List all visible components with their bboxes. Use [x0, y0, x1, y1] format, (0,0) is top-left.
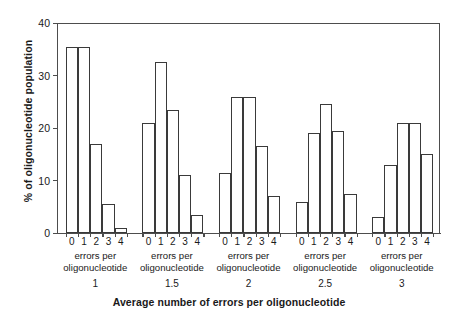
bar — [344, 194, 356, 233]
x-tick-label: 3 — [179, 236, 191, 247]
bar — [320, 104, 332, 233]
x-tick-label: 2 — [167, 236, 179, 247]
group-caption: errors peroligonucleotide — [351, 250, 452, 273]
x-tick-mark — [243, 233, 244, 237]
bar — [66, 47, 78, 233]
bar — [409, 123, 421, 233]
bar — [115, 228, 127, 233]
y-tick-label: 40 — [16, 18, 50, 28]
x-tick-mark — [372, 233, 373, 237]
x-tick-mark — [179, 233, 180, 237]
bar — [372, 217, 384, 233]
x-tick-label: 4 — [344, 236, 356, 247]
x-tick-mark — [357, 233, 358, 237]
x-tick-mark — [397, 233, 398, 237]
x-tick-label: 2 — [243, 236, 255, 247]
x-tick-label: 0 — [142, 236, 154, 247]
bar — [397, 123, 409, 233]
bar — [155, 62, 167, 233]
x-tick-label: 3 — [409, 236, 421, 247]
x-tick-mark — [344, 233, 345, 237]
x-tick-mark — [308, 233, 309, 237]
x-tick-label: 3 — [102, 236, 114, 247]
x-tick-mark — [191, 233, 192, 237]
x-tick-label: 3 — [332, 236, 344, 247]
x-tick-label: 1 — [384, 236, 396, 247]
x-tick-label: 4 — [191, 236, 203, 247]
x-tick-label: 2 — [90, 236, 102, 247]
x-tick-mark — [115, 233, 116, 237]
y-axis-title: % of oligonucleotide population — [22, 16, 34, 226]
bar — [90, 144, 102, 233]
bar — [243, 97, 255, 234]
group-caption-line2: oligonucleotide — [351, 262, 452, 274]
group-caption-line1: errors per — [351, 250, 452, 262]
x-tick-label: 0 — [66, 236, 78, 247]
x-tick-mark — [78, 233, 79, 237]
x-tick-label: 4 — [268, 236, 280, 247]
y-tick-label: 10 — [16, 176, 50, 186]
x-tick-label: 2 — [320, 236, 332, 247]
x-tick-label: 1 — [231, 236, 243, 247]
x-tick-mark — [127, 233, 128, 237]
chart-figure: % of oligonucleotide population 01020304… — [0, 0, 458, 325]
x-tick-mark — [203, 233, 204, 237]
x-tick-label: 4 — [115, 236, 127, 247]
x-tick-mark — [90, 233, 91, 237]
x-tick-mark — [102, 233, 103, 237]
x-tick-mark — [268, 233, 269, 237]
x-tick-label: 1 — [308, 236, 320, 247]
bar — [332, 131, 344, 233]
x-tick-mark — [409, 233, 410, 237]
group-value-label: 3 — [351, 278, 452, 289]
x-tick-mark — [155, 233, 156, 237]
x-tick-mark — [167, 233, 168, 237]
bar — [78, 47, 90, 233]
bar — [179, 175, 191, 233]
bar — [231, 97, 243, 234]
bar — [308, 133, 320, 233]
x-tick-label: 2 — [397, 236, 409, 247]
bar — [142, 123, 154, 233]
x-tick-mark — [256, 233, 257, 237]
bar — [191, 215, 203, 233]
x-tick-mark — [433, 233, 434, 237]
x-tick-mark — [280, 233, 281, 237]
x-tick-mark — [296, 233, 297, 237]
bar — [167, 110, 179, 233]
bar — [219, 173, 231, 233]
x-tick-mark — [320, 233, 321, 237]
bar — [421, 154, 433, 233]
x-tick-label: 3 — [256, 236, 268, 247]
x-tick-label: 0 — [219, 236, 231, 247]
x-tick-mark — [231, 233, 232, 237]
x-tick-label: 0 — [372, 236, 384, 247]
x-tick-mark — [384, 233, 385, 237]
y-tick-label: 20 — [16, 123, 50, 133]
bar — [102, 204, 114, 233]
x-tick-mark — [421, 233, 422, 237]
x-axis-title: Average number of errors per oligonucleo… — [0, 296, 458, 308]
bar — [256, 146, 268, 233]
x-tick-label: 1 — [155, 236, 167, 247]
x-tick-label: 1 — [78, 236, 90, 247]
x-tick-mark — [142, 233, 143, 237]
bar — [384, 165, 396, 233]
bar — [296, 202, 308, 234]
bar — [268, 196, 280, 233]
x-tick-mark — [332, 233, 333, 237]
x-tick-mark — [219, 233, 220, 237]
x-tick-label: 4 — [421, 236, 433, 247]
x-tick-label: 0 — [296, 236, 308, 247]
y-tick-label: 30 — [16, 71, 50, 81]
bars-layer — [57, 23, 440, 233]
y-tick-label: 0 — [16, 228, 50, 238]
x-tick-mark — [66, 233, 67, 237]
